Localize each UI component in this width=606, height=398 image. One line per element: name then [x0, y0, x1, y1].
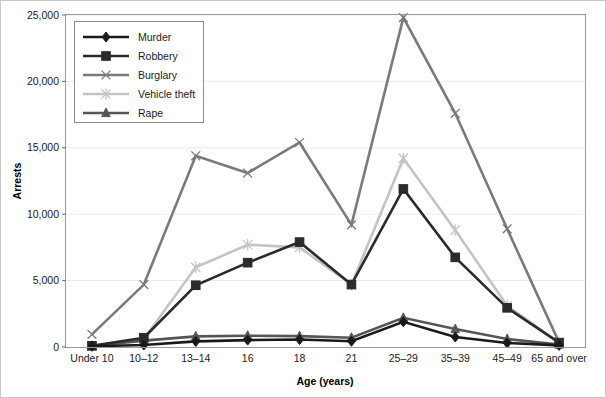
y-tick-label: 25,000	[27, 9, 59, 21]
y-tick-label: 15,000	[27, 141, 59, 153]
legend-label: Robbery	[138, 50, 178, 62]
x-tick-label: 65 and over	[531, 352, 587, 364]
x-tick-label: Under 10	[70, 352, 113, 364]
data-point-square	[399, 185, 408, 194]
x-tick-label: 10–12	[129, 352, 158, 364]
x-tick-label: 21	[346, 352, 358, 364]
legend-label: Burglary	[138, 69, 178, 81]
legend-label: Vehicle theft	[138, 88, 195, 100]
x-axis-ticks: Under 1010–1213–1416182125–2935–3945–496…	[70, 352, 587, 364]
data-point-diamond	[451, 332, 459, 342]
x-tick-label: 13–14	[181, 352, 210, 364]
x-tick-label: 18	[294, 352, 306, 364]
data-point-square	[451, 253, 460, 262]
y-axis-title: Arrests	[11, 162, 23, 199]
data-point-square	[243, 258, 252, 267]
x-tick-label: 45–49	[493, 352, 522, 364]
legend-label: Rape	[138, 107, 163, 119]
x-axis-title: Age (years)	[296, 375, 353, 387]
data-point-star	[451, 224, 460, 236]
data-point-square	[503, 304, 512, 313]
data-point-square	[347, 280, 356, 289]
line-chart: 05,00010,00015,00020,00025,000 Under 101…	[1, 1, 606, 398]
data-point-cross	[295, 138, 304, 147]
chart-figure: 05,00010,00015,00020,00025,000 Under 101…	[0, 0, 606, 398]
y-tick-label: 10,000	[27, 208, 59, 220]
data-point-cross	[88, 330, 97, 339]
data-point-square	[102, 52, 111, 61]
x-tick-label: 16	[242, 352, 254, 364]
data-point-square	[295, 238, 304, 247]
y-axis-ticks: 05,00010,00015,00020,00025,000	[27, 9, 66, 353]
y-tick-label: 5,000	[33, 274, 59, 286]
y-tick-label: 0	[53, 341, 59, 353]
y-tick-label: 20,000	[27, 75, 59, 87]
data-point-square	[191, 281, 200, 290]
chart-legend: MurderRobberyBurglaryVehicle theftRape	[75, 22, 204, 123]
x-tick-label: 25–29	[389, 352, 418, 364]
legend-label: Murder	[138, 31, 172, 43]
x-tick-label: 35–39	[441, 352, 470, 364]
data-point-star	[399, 153, 408, 165]
